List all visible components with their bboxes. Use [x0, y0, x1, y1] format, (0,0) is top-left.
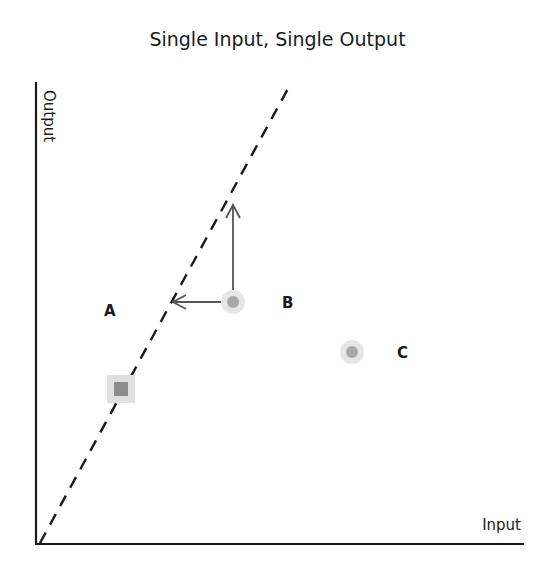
point-label-c: C: [397, 344, 408, 362]
point-label-a: A: [104, 302, 116, 320]
y-axis-label: Output: [40, 90, 58, 142]
point-label-b: B: [282, 294, 293, 312]
point-b-marker-circle-icon: [221, 290, 245, 314]
arrow-left: [173, 295, 221, 309]
frontier-line: [40, 85, 290, 543]
point-a-marker-square-icon: [107, 375, 135, 403]
x-axis-label: Input: [482, 516, 521, 534]
diagram-canvas: [0, 0, 555, 576]
point-c-marker-circle-icon: [340, 340, 364, 364]
arrow-up: [226, 205, 240, 290]
